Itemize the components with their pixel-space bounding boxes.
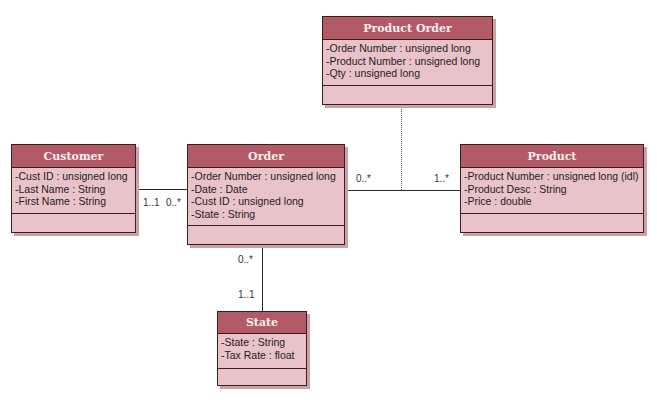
- attribute: -Order Number : unsigned long: [191, 170, 341, 183]
- attribute: -Cust ID : unsigned long: [15, 170, 132, 183]
- attribute: -Date : Date: [191, 183, 341, 196]
- attribute: -State : String: [191, 208, 341, 221]
- multiplicity-customer-side: 1..1: [143, 197, 160, 208]
- attribute: -Last Name : String: [15, 183, 132, 196]
- class-name: Customer: [44, 150, 104, 163]
- class-state[interactable]: State -State : String -Tax Rate : float: [217, 311, 307, 386]
- multiplicity-order-side-product: 0..*: [356, 173, 371, 184]
- attribute: -State : String: [221, 336, 303, 349]
- class-name: Product: [528, 150, 577, 163]
- attribute: -Price : double: [464, 195, 640, 208]
- attribute: -Qty : unsigned long: [326, 67, 489, 80]
- attribute: -Product Number : unsigned long (idl): [464, 170, 640, 183]
- attribute: -Order Number : unsigned long: [326, 42, 489, 55]
- class-order[interactable]: Order -Order Number : unsigned long -Dat…: [187, 144, 345, 245]
- class-customer[interactable]: Customer -Cust ID : unsigned long -Last …: [11, 144, 136, 233]
- class-header: State: [218, 312, 306, 334]
- association-customer-order-line: [136, 189, 187, 190]
- class-name: Product Order: [363, 22, 452, 35]
- association-class-dashed-line: [401, 105, 402, 190]
- class-header: Order: [188, 145, 344, 168]
- multiplicity-order-side-state: 0..*: [238, 254, 253, 265]
- class-product-order[interactable]: Product Order -Order Number : unsigned l…: [322, 16, 493, 105]
- class-attributes: -Cust ID : unsigned long -Last Name : St…: [12, 168, 135, 214]
- class-attributes: -Order Number : unsigned long -Product N…: [323, 40, 492, 86]
- class-attributes: -Product Number : unsigned long (idl) -P…: [461, 168, 643, 214]
- class-header: Customer: [12, 145, 135, 168]
- association-order-state-line: [262, 245, 263, 311]
- class-attributes: -State : String -Tax Rate : float: [218, 334, 306, 369]
- multiplicity-state-side: 1..1: [238, 289, 255, 300]
- class-attributes: -Order Number : unsigned long -Date : Da…: [188, 168, 344, 226]
- attribute: -First Name : String: [15, 195, 132, 208]
- multiplicity-product-side: 1..*: [434, 173, 449, 184]
- class-product[interactable]: Product -Product Number : unsigned long …: [460, 144, 644, 233]
- class-name: State: [246, 316, 278, 329]
- class-name: Order: [248, 150, 284, 163]
- attribute: -Product Desc : String: [464, 183, 640, 196]
- attribute: -Tax Rate : float: [221, 349, 303, 362]
- attribute: -Product Number : unsigned long: [326, 55, 489, 68]
- class-header: Product: [461, 145, 643, 168]
- multiplicity-order-side-customer: 0..*: [166, 197, 181, 208]
- attribute: -Cust ID : unsigned long: [191, 195, 341, 208]
- association-order-product-line: [345, 190, 460, 191]
- class-header: Product Order: [323, 17, 492, 40]
